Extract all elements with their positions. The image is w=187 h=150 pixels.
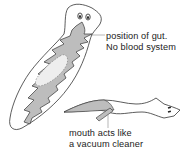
gut-label: position of gut. No blood system [106, 31, 176, 52]
gut-label-line1: position of gut. [106, 31, 176, 42]
mouth-label: mouth acts like a vacuum cleaner [69, 128, 143, 149]
mouth-label-line1: mouth acts like [69, 128, 143, 139]
mouth-label-line2: a vacuum cleaner [69, 139, 143, 150]
gut-label-line2: No blood system [106, 42, 176, 53]
flatworm-side-view-feeding [64, 98, 180, 121]
